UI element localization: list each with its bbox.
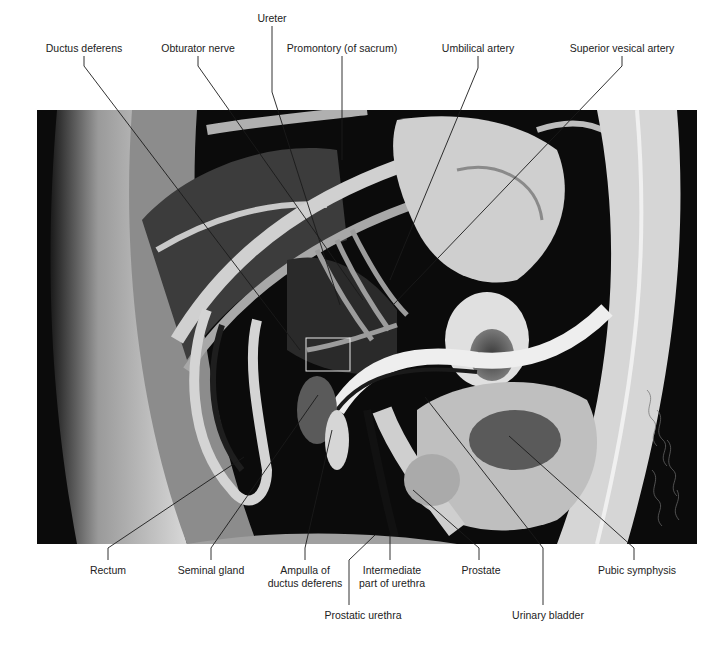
- label-prostate: Prostate: [461, 564, 500, 577]
- label-superior-vesical-artery: Superior vesical artery: [570, 42, 674, 55]
- label-rectum: Rectum: [90, 564, 126, 577]
- sagittal-pelvis-photo: [37, 110, 697, 544]
- label-obturator-nerve: Obturator nerve: [161, 42, 235, 55]
- label-umbilical-artery: Umbilical artery: [442, 42, 514, 55]
- label-ampulla-line1: Ampulla of: [280, 564, 330, 577]
- label-prostatic-urethra: Prostatic urethra: [324, 609, 401, 622]
- label-promontory: Promontory (of sacrum): [287, 42, 397, 55]
- label-intermediate-urethra-line2: part of urethra: [359, 577, 425, 590]
- label-pubic-symphysis: Pubic symphysis: [598, 564, 676, 577]
- label-ureter: Ureter: [257, 12, 286, 25]
- label-ampulla-line2: ductus deferens: [268, 577, 343, 590]
- anatomy-figure: Ductus deferens Obturator nerve Ureter P…: [0, 0, 726, 662]
- label-ductus-deferens: Ductus deferens: [46, 42, 122, 55]
- label-intermediate-urethra-line1: Intermediate: [363, 564, 421, 577]
- label-seminal-gland: Seminal gland: [178, 564, 245, 577]
- label-urinary-bladder: Urinary bladder: [512, 609, 584, 622]
